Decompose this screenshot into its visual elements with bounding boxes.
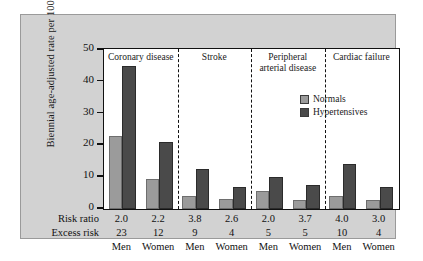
y-axis-tick-mark bbox=[97, 80, 104, 82]
plot-area: 01020304050Coronary diseaseStrokePeriphe… bbox=[103, 48, 400, 210]
y-axis-tick-mark bbox=[97, 207, 104, 209]
bar-hypertensives-6 bbox=[343, 164, 357, 209]
legend-label-normals: Normals bbox=[313, 94, 346, 104]
bar-normals-3 bbox=[219, 199, 233, 209]
y-axis-tick-mark bbox=[97, 112, 104, 114]
y-axis-tick-label: 10 bbox=[68, 168, 94, 180]
sex-label: Women bbox=[357, 241, 401, 252]
legend-item-normals: Normals bbox=[300, 93, 367, 105]
y-axis-tick-label: 30 bbox=[68, 105, 94, 117]
y-axis-tick-mark bbox=[97, 175, 104, 177]
risk-ratio-row-label: Risk ratio bbox=[23, 213, 99, 224]
figure-panel: Biennial age-adjusted rate per 1000 0102… bbox=[20, 14, 396, 239]
bar-hypertensives-0 bbox=[122, 66, 136, 209]
excess-risk-row-label: Excess risk bbox=[23, 227, 99, 238]
bar-normals-6 bbox=[329, 196, 343, 209]
group-label: Peripheralarterial disease bbox=[251, 52, 325, 73]
bar-normals-7 bbox=[366, 200, 380, 209]
legend: Normals Hypertensives bbox=[300, 93, 367, 119]
group-divider bbox=[178, 49, 179, 209]
group-label: Cardiac failure bbox=[325, 52, 399, 63]
plot-inner: 01020304050Coronary diseaseStrokePeriphe… bbox=[104, 49, 399, 209]
excess-risk-value: 4 bbox=[357, 227, 401, 238]
group-divider bbox=[251, 49, 252, 209]
y-axis-tick-label: 40 bbox=[68, 73, 94, 85]
group-label-line: Coronary disease bbox=[104, 52, 178, 63]
bar-normals-5 bbox=[293, 200, 307, 209]
bar-normals-1 bbox=[146, 179, 160, 209]
y-axis-tick-mark bbox=[97, 48, 104, 50]
legend-swatch-normals bbox=[300, 95, 309, 104]
bar-normals-0 bbox=[109, 136, 123, 209]
legend-swatch-hypertensives bbox=[300, 108, 309, 117]
bar-normals-2 bbox=[182, 196, 196, 209]
bar-hypertensives-7 bbox=[380, 187, 394, 209]
group-label: Stroke bbox=[178, 52, 252, 63]
group-label-line: Stroke bbox=[178, 52, 252, 63]
bar-hypertensives-5 bbox=[306, 185, 320, 209]
group-label: Coronary disease bbox=[104, 52, 178, 63]
bar-hypertensives-3 bbox=[233, 187, 247, 209]
risk-ratio-value: 3.0 bbox=[357, 213, 401, 224]
group-label-line: arterial disease bbox=[251, 63, 325, 74]
y-axis-tick-label: 20 bbox=[68, 136, 94, 148]
group-divider bbox=[325, 49, 326, 209]
y-axis-title: Biennial age-adjusted rate per 1000 bbox=[45, 0, 56, 148]
annotation-table: Risk ratio Excess risk 2.02.23.82.62.03.… bbox=[21, 211, 395, 255]
y-axis-tick-mark bbox=[97, 143, 104, 145]
group-label-line: Cardiac failure bbox=[325, 52, 399, 63]
y-axis-tick-label: 50 bbox=[68, 41, 94, 53]
group-label-line: Peripheral bbox=[251, 52, 325, 63]
bar-hypertensives-4 bbox=[269, 177, 283, 209]
bar-normals-4 bbox=[256, 191, 270, 209]
legend-item-hypertensives: Hypertensives bbox=[300, 106, 367, 118]
legend-label-hypertensives: Hypertensives bbox=[313, 107, 367, 117]
bar-hypertensives-2 bbox=[196, 169, 210, 209]
bar-hypertensives-1 bbox=[159, 142, 173, 209]
